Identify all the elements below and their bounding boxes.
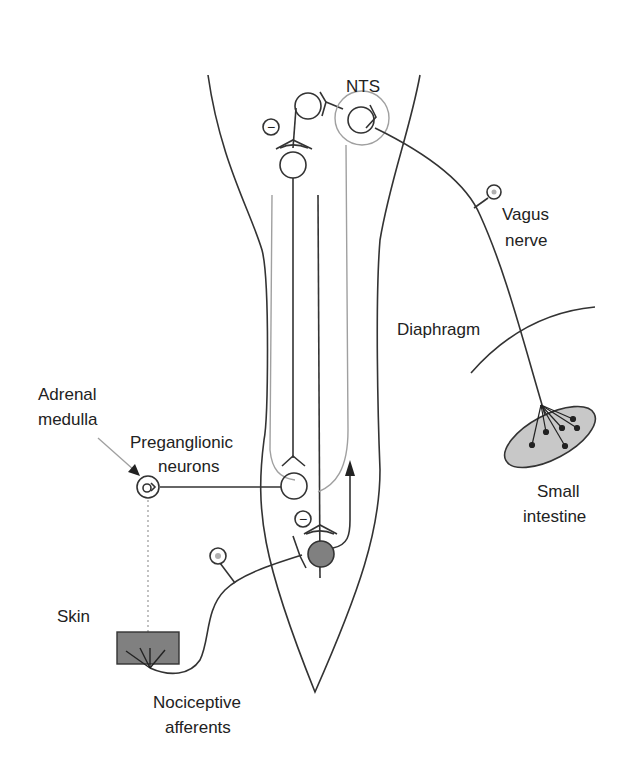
label-adrenal-2: medulla — [38, 410, 98, 429]
drg-nucleus — [215, 553, 221, 559]
inhibitory-symbol: − — [267, 119, 275, 135]
diaphragm-line — [471, 307, 595, 373]
label-skin: Skin — [57, 607, 90, 626]
label-nociceptive-2: afferents — [165, 718, 231, 737]
label-small-intestine-1: Small — [537, 482, 580, 501]
label-diaphragm: Diaphragm — [397, 320, 480, 339]
label-nociceptive-1: Nociceptive — [153, 693, 241, 712]
arrowhead-icon — [345, 460, 355, 476]
adrenal-pointer — [98, 438, 134, 470]
brainstem-neuron — [295, 93, 321, 119]
label-small-intestine-2: intestine — [523, 507, 586, 526]
synapse-mark — [293, 536, 306, 568]
label-preganglionic-1: Preganglionic — [130, 433, 234, 452]
label-adrenal-1: Adrenal — [38, 385, 97, 404]
ascending-axon — [333, 474, 350, 548]
projection-neuron — [308, 541, 334, 567]
ganglion-nucleus — [492, 190, 497, 195]
vagus-nerve — [375, 128, 545, 415]
autonomic-pathway-diagram: − − — [0, 0, 635, 757]
gray-tract-left — [270, 195, 295, 480]
neuraxis-outline — [208, 75, 420, 692]
label-vagus-2: nerve — [505, 231, 548, 250]
connecting-axon — [326, 102, 343, 109]
label-nts: NTS — [346, 77, 380, 96]
gray-tract-right — [318, 145, 348, 492]
small-intestine — [496, 394, 605, 480]
adrenal-medulla-nucleus — [143, 484, 151, 492]
nts-region — [335, 91, 389, 145]
upper-relay-neuron — [280, 152, 306, 178]
nts-neuron — [348, 107, 374, 133]
inhibitory-symbol: − — [299, 511, 307, 527]
drg-stem — [220, 563, 235, 583]
label-preganglionic-2: neurons — [158, 457, 219, 476]
vagal-ganglion-stem — [474, 198, 488, 208]
preganglionic-neuron — [281, 473, 307, 499]
skin-patch — [117, 632, 179, 664]
label-vagus-1: Vagus — [502, 205, 549, 224]
descending-tract-2 — [318, 195, 320, 578]
